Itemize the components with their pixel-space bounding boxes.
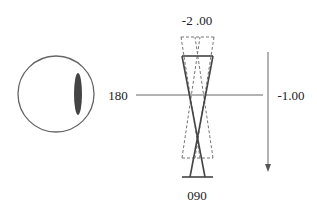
top-power-label: -2 .00 — [182, 13, 212, 28]
power-arrow — [265, 52, 271, 172]
right-power-label: -1.00 — [277, 88, 304, 103]
optics-diagram: -2 .00 -1.00 180 090 — [0, 0, 317, 214]
focal-line-ellipse-icon — [74, 73, 82, 115]
eye-figure — [18, 56, 94, 132]
arrow-down-icon — [265, 164, 271, 172]
eye-circle-icon — [18, 56, 94, 132]
left-axis-label: 180 — [108, 88, 128, 103]
bottom-axis-label: 090 — [187, 188, 207, 203]
